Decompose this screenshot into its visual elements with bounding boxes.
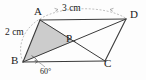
geometry-figure: A B C D P 3 cm 2 cm 60° [0,0,146,80]
angle-label-60: 60° [40,68,51,76]
point-label-p: P [66,33,72,44]
dimension-label-side: 2 cm [5,28,24,38]
edge-bc [23,61,105,62]
dim-arrow-left-icon [55,8,59,11]
vertex-label-d: D [130,9,138,20]
dimension-label-top: 3 cm [62,4,81,14]
edge-da [40,19,126,20]
point-p-marker [74,40,76,42]
dashed-arc-ad [40,9,126,19]
vertex-label-a: A [34,6,42,17]
dim-arrow-right-icon [110,8,114,11]
vertex-label-b: B [11,55,18,66]
vertex-label-c: C [104,58,111,69]
edge-cd [105,19,126,61]
